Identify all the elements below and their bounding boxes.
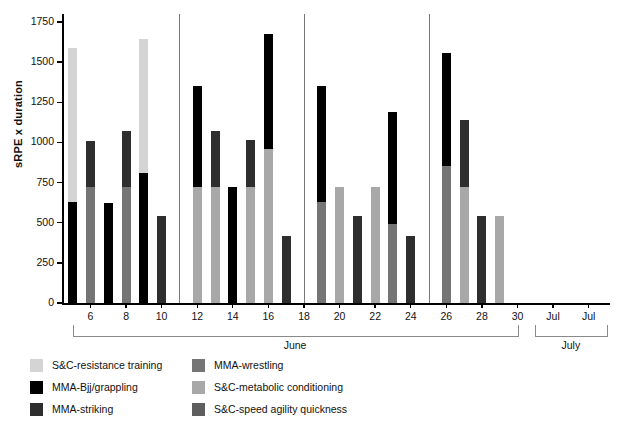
week-separator-line: [429, 14, 430, 303]
x-axis-tick: [339, 303, 340, 308]
bar-segment: [246, 140, 255, 187]
x-axis-tick-label: 10: [144, 310, 180, 322]
x-axis-tick: [410, 303, 411, 308]
bar-day-29: [495, 216, 504, 304]
bar-segment: [86, 141, 95, 188]
x-axis-tick: [197, 303, 198, 308]
bar-segment: [86, 187, 95, 303]
x-axis-tick: [268, 303, 269, 308]
y-axis-tick-label: 500: [16, 216, 54, 228]
bar-day-17: [282, 236, 291, 303]
legend-swatch: [30, 381, 43, 394]
x-axis-tick-label: 26: [428, 310, 464, 322]
bar-segment: [246, 187, 255, 303]
bar-segment: [317, 86, 326, 202]
bar-day-27: [460, 120, 469, 303]
y-axis-tick-label: 0: [16, 296, 54, 308]
month-label: June: [255, 339, 335, 351]
bar-day-6: [86, 141, 95, 303]
bar-segment: [193, 187, 202, 303]
legend-swatch: [30, 359, 43, 372]
y-axis-tick-label: 1250: [16, 95, 54, 107]
bar-day-26: [442, 53, 451, 303]
bar-segment: [139, 39, 148, 173]
y-axis-tick-label: 1000: [16, 135, 54, 147]
y-axis-tick-label: 250: [16, 256, 54, 268]
bar-segment: [460, 187, 469, 303]
bar-day-7: [104, 203, 113, 303]
legend-label: MMA-wrestling: [214, 358, 283, 373]
x-axis-tick: [552, 303, 553, 308]
x-axis-tick-label: 24: [393, 310, 429, 322]
y-axis-tick-label: 750: [16, 176, 54, 188]
legend-label: S&C-resistance training: [52, 358, 162, 373]
bar-day-21: [353, 216, 362, 304]
bar-segment: [495, 216, 504, 304]
bar-day-5: [68, 48, 77, 303]
legend: S&C-resistance trainingMMA-Bjj/grappling…: [30, 358, 590, 426]
bar-day-28: [477, 216, 486, 304]
x-axis-tick: [374, 303, 375, 308]
x-axis-tick-label: 12: [179, 310, 215, 322]
x-axis-tick-label: Jul: [535, 310, 571, 322]
bar-segment: [388, 224, 397, 303]
bar-segment: [388, 112, 397, 224]
x-axis-tick-label: 28: [464, 310, 500, 322]
bar-segment: [68, 48, 77, 202]
bar-segment: [104, 203, 113, 303]
bar-segment: [282, 236, 291, 303]
chart-root: sRPE x duration 025050075010001250150017…: [0, 0, 628, 431]
x-axis-tick: [125, 303, 126, 308]
y-axis-label: sRPE x duration: [12, 24, 24, 224]
bar-segment: [122, 131, 131, 187]
bar-segment: [68, 202, 77, 303]
bar-segment: [193, 86, 202, 187]
bar-day-15: [246, 140, 255, 303]
bar-day-22: [371, 187, 380, 303]
y-axis-tick-label: 1500: [16, 55, 54, 67]
x-axis-tick: [232, 303, 233, 308]
x-axis-tick: [481, 303, 482, 308]
x-axis-tick: [446, 303, 447, 308]
x-axis-tick-label: 8: [108, 310, 144, 322]
bar-segment: [228, 187, 237, 303]
bar-segment: [353, 216, 362, 304]
plot-area: [62, 14, 610, 303]
bar-segment: [442, 53, 451, 166]
week-separator-line: [304, 14, 305, 303]
bar-day-23: [388, 112, 397, 303]
legend-swatch: [192, 403, 205, 416]
x-axis-tick-label: 16: [250, 310, 286, 322]
bar-segment: [371, 187, 380, 303]
bar-segment: [477, 216, 486, 304]
bar-segment: [211, 131, 220, 187]
bar-segment: [264, 34, 273, 149]
bar-day-24: [406, 236, 415, 303]
legend-label: S&C-speed agility quickness: [214, 402, 347, 417]
month-label: July: [531, 339, 611, 351]
x-axis-tick: [588, 303, 589, 308]
month-bracket: [535, 325, 608, 337]
bar-segment: [264, 149, 273, 303]
x-axis-tick-label: 6: [72, 310, 108, 322]
bar-day-16: [264, 34, 273, 303]
month-bracket: [73, 325, 520, 337]
bar-day-14: [228, 187, 237, 303]
bar-segment: [317, 202, 326, 303]
bar-segment: [122, 187, 131, 303]
bar-segment: [335, 187, 344, 303]
x-axis-tick-label: 20: [322, 310, 358, 322]
bar-day-12: [193, 86, 202, 303]
bar-day-20: [335, 187, 344, 303]
x-axis-tick: [161, 303, 162, 308]
bar-day-9: [139, 39, 148, 303]
bar-segment: [211, 187, 220, 303]
bar-day-19: [317, 86, 326, 303]
x-axis-tick-label: 22: [357, 310, 393, 322]
legend-swatch: [192, 381, 205, 394]
week-separator-line: [179, 14, 180, 303]
bar-segment: [460, 120, 469, 187]
bar-segment: [157, 216, 166, 303]
x-axis-tick: [517, 303, 518, 308]
bar-segment: [139, 173, 148, 303]
